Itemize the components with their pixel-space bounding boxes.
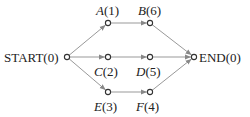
node-f [147, 89, 152, 94]
node-label-f-duration: (4) [144, 99, 159, 114]
node-label-a-name: A [95, 3, 104, 18]
node-label-end: END(0) [199, 50, 241, 65]
node-label-a-duration: (1) [104, 3, 119, 18]
activity-network-diagram: START(0) END(0) A(1) B(6) C(2) D(5) E(3)… [0, 0, 250, 117]
node-label-d-name: D [135, 64, 146, 79]
node-end [191, 54, 196, 59]
node-d [147, 54, 152, 59]
node-label-c-name: C [94, 64, 103, 79]
svg-text:B(6): B(6) [138, 3, 161, 18]
node-c [105, 54, 110, 59]
node-label-e-name: E [93, 99, 102, 114]
svg-text:F(4): F(4) [135, 99, 159, 114]
labels: START(0) END(0) A(1) B(6) C(2) D(5) E(3)… [4, 3, 241, 114]
svg-text:D(5): D(5) [135, 64, 161, 79]
node-label-b-duration: (6) [146, 3, 161, 18]
node-label-b-name: B [138, 3, 146, 18]
edges [69, 23, 192, 92]
svg-text:E(3): E(3) [93, 99, 117, 114]
node-start [64, 54, 69, 59]
svg-text:A(1): A(1) [95, 3, 119, 18]
edge-start-a [69, 25, 106, 55]
node-label-e-duration: (3) [102, 99, 117, 114]
node-b [147, 20, 152, 25]
node-label-start: START(0) [4, 50, 59, 65]
node-a [105, 20, 110, 25]
svg-text:C(2): C(2) [94, 64, 118, 79]
node-label-d-duration: (5) [145, 64, 160, 79]
node-label-c-duration: (2) [103, 64, 118, 79]
node-e [105, 89, 110, 94]
edge-b-end [152, 25, 191, 56]
